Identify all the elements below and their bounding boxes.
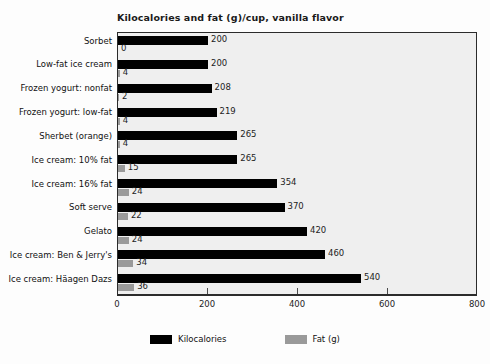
bar-value-label-fat: 36 bbox=[137, 282, 148, 291]
bar-value-label-kilocalories: 200 bbox=[211, 59, 227, 68]
category-label: Low-fat ice cream bbox=[0, 59, 112, 69]
chart-title: Kilocalories and fat (g)/cup, vanilla fl… bbox=[117, 12, 477, 23]
bar-value-label-kilocalories: 265 bbox=[240, 130, 256, 139]
legend-item[interactable]: Kilocalories bbox=[150, 334, 226, 344]
category-label: Ice cream: Häagen Dazs bbox=[0, 274, 112, 284]
bar-kilocalories bbox=[118, 36, 208, 45]
bar-value-label-fat: 24 bbox=[132, 235, 143, 244]
legend-label: Fat (g) bbox=[313, 334, 340, 344]
bar-group: 46034 bbox=[118, 247, 476, 271]
category-label: Frozen yogurt: low-fat bbox=[0, 107, 112, 117]
bar-fat bbox=[118, 284, 134, 291]
bar-value-label-kilocalories: 540 bbox=[364, 273, 380, 282]
bar-group: 35424 bbox=[118, 176, 476, 200]
category-label: Ice cream: 10% fat bbox=[0, 155, 112, 165]
bar-value-label-fat: 15 bbox=[128, 163, 139, 172]
category-label: Gelato bbox=[0, 226, 112, 236]
bar-kilocalories bbox=[118, 131, 237, 140]
legend-swatch-icon bbox=[285, 335, 307, 344]
bar-group: 2082 bbox=[118, 81, 476, 105]
category-label: Soft serve bbox=[0, 202, 112, 212]
bar-fat bbox=[118, 237, 129, 244]
x-axis-tick-label: 600 bbox=[379, 299, 395, 309]
bar-kilocalories bbox=[118, 274, 361, 283]
bar-group: 2194 bbox=[118, 104, 476, 128]
plot-area: 2000200420822194265426515354243702242024… bbox=[117, 32, 477, 294]
bar-fat bbox=[118, 189, 129, 196]
bar-value-label-fat: 34 bbox=[136, 258, 147, 267]
bar-value-label-kilocalories: 370 bbox=[288, 202, 304, 211]
bar-value-label-fat: 4 bbox=[123, 139, 128, 148]
bar-kilocalories bbox=[118, 60, 208, 69]
x-axis-tick-label: 400 bbox=[289, 299, 305, 309]
x-axis-tick bbox=[387, 288, 388, 294]
chart-legend: KilocaloriesFat (g) bbox=[0, 329, 490, 349]
bar-value-label-kilocalories: 460 bbox=[328, 249, 344, 258]
bar-kilocalories bbox=[118, 250, 325, 259]
legend-item[interactable]: Fat (g) bbox=[285, 334, 340, 344]
bar-value-label-kilocalories: 208 bbox=[215, 83, 231, 92]
bar-value-label-kilocalories: 219 bbox=[220, 107, 236, 116]
x-axis-tick-label: 800 bbox=[469, 299, 485, 309]
bar-kilocalories bbox=[118, 227, 307, 236]
bar-fat bbox=[118, 70, 120, 77]
bar-value-label-fat: 22 bbox=[131, 211, 142, 220]
category-label: Sorbet bbox=[0, 36, 112, 46]
category-label: Sherbet (orange) bbox=[0, 131, 112, 141]
category-label: Frozen yogurt: nonfat bbox=[0, 83, 112, 93]
bar-value-label-fat: 24 bbox=[132, 187, 143, 196]
x-axis-tick bbox=[207, 288, 208, 294]
bar-group: 2000 bbox=[118, 33, 476, 57]
bar-group: 37022 bbox=[118, 200, 476, 224]
bar-value-label-kilocalories: 265 bbox=[240, 154, 256, 163]
bar-group: 2004 bbox=[118, 57, 476, 81]
category-label: Ice cream: 16% fat bbox=[0, 179, 112, 189]
bar-kilocalories bbox=[118, 203, 285, 212]
bar-fat bbox=[118, 213, 128, 220]
bar-value-label-fat: 2 bbox=[122, 92, 127, 101]
bar-value-label-fat: 4 bbox=[123, 68, 128, 77]
bar-kilocalories bbox=[118, 108, 217, 117]
x-axis-tick-label: 200 bbox=[199, 299, 215, 309]
bar-value-label-kilocalories: 354 bbox=[280, 178, 296, 187]
bar-value-label-kilocalories: 200 bbox=[211, 35, 227, 44]
legend-label: Kilocalories bbox=[178, 334, 226, 344]
bar-fat bbox=[118, 260, 133, 267]
bar-chart: Kilocalories and fat (g)/cup, vanilla fl… bbox=[0, 0, 490, 364]
legend-swatch-icon bbox=[150, 335, 172, 344]
bar-fat bbox=[118, 165, 125, 172]
bar-value-label-kilocalories: 420 bbox=[310, 226, 326, 235]
bar-fat bbox=[118, 118, 120, 125]
plot-inner: 2000200420822194265426515354243702242024… bbox=[118, 33, 476, 294]
bar-kilocalories bbox=[118, 84, 212, 93]
bar-group: 26515 bbox=[118, 152, 476, 176]
category-label: Ice cream: Ben & Jerry's bbox=[0, 250, 112, 260]
bar-group: 42024 bbox=[118, 224, 476, 248]
x-axis-line bbox=[117, 294, 477, 296]
bar-fat bbox=[118, 141, 120, 148]
x-axis-tick-label: 0 bbox=[114, 299, 119, 309]
bar-value-label-fat: 0 bbox=[121, 44, 126, 53]
bar-group: 2654 bbox=[118, 128, 476, 152]
bar-value-label-fat: 4 bbox=[123, 116, 128, 125]
bar-fat bbox=[118, 94, 119, 101]
x-axis-tick bbox=[297, 288, 298, 294]
